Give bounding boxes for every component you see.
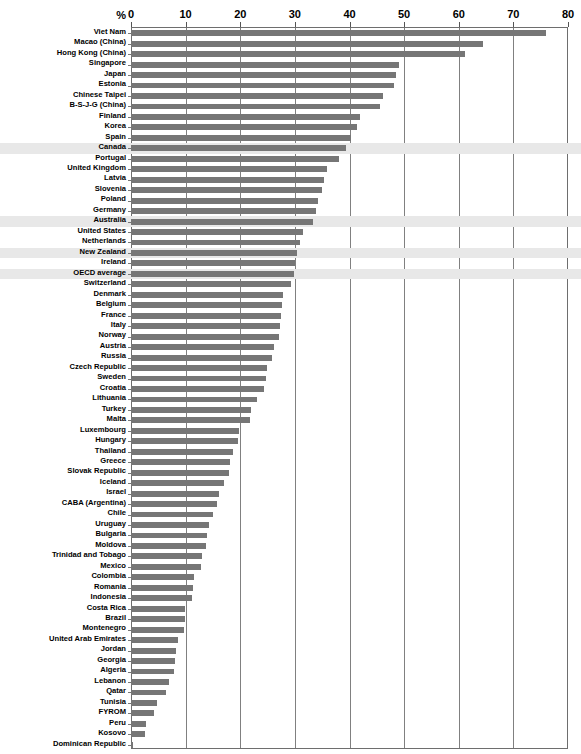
- category-label: Malta: [0, 414, 126, 424]
- bar: [131, 30, 546, 36]
- category-label: Finland: [0, 111, 126, 121]
- bar: [131, 449, 233, 455]
- category-label: Macao (China): [0, 37, 126, 47]
- category-label: Uruguay: [0, 519, 126, 529]
- bar: [131, 512, 213, 518]
- category-label: Colombia: [0, 571, 126, 581]
- category-label: Canada: [0, 142, 126, 152]
- category-label: Moldova: [0, 540, 126, 550]
- x-tick-label: 40: [343, 8, 355, 20]
- bar: [131, 553, 202, 559]
- category-label: Japan: [0, 69, 126, 79]
- bar: [131, 145, 346, 151]
- bar: [131, 585, 193, 591]
- category-label: Montenegro: [0, 623, 126, 633]
- category-label: CABA (Argentina): [0, 498, 126, 508]
- bar: [131, 135, 351, 141]
- category-label: Netherlands: [0, 236, 126, 246]
- category-label: Hong Kong (China): [0, 48, 126, 58]
- category-label: Costa Rica: [0, 603, 126, 613]
- category-label: Greece: [0, 456, 126, 466]
- category-label: Qatar: [0, 686, 126, 696]
- category-label: Slovenia: [0, 184, 126, 194]
- category-label: Turkey: [0, 404, 126, 414]
- bar: [131, 376, 266, 382]
- bar: [131, 417, 250, 423]
- category-label: Chile: [0, 508, 126, 518]
- bar: [131, 438, 238, 444]
- x-tick-label: 60: [453, 8, 465, 20]
- bar: [131, 313, 281, 319]
- x-axis-tick: [459, 22, 460, 27]
- bar: [131, 51, 465, 57]
- bar: [131, 250, 297, 256]
- category-label: Austria: [0, 341, 126, 351]
- bar: [131, 104, 380, 110]
- category-label: OECD average: [0, 268, 126, 278]
- bar: [131, 616, 185, 622]
- x-axis-tick: [240, 22, 241, 27]
- category-label: Slovak Republic: [0, 466, 126, 476]
- bar: [131, 219, 313, 225]
- bar: [131, 156, 339, 162]
- bar: [131, 114, 360, 120]
- bar: [131, 187, 322, 193]
- bar: [131, 742, 133, 748]
- x-tick-label: 0: [128, 8, 134, 20]
- category-label: Russia: [0, 351, 126, 361]
- horizontal-bar-chart: % 01020304050607080 Viet NamMacao (China…: [0, 0, 581, 754]
- category-label: Tunisia: [0, 697, 126, 707]
- category-label: Norway: [0, 330, 126, 340]
- bar-rows: Viet NamMacao (China)Hong Kong (China)Si…: [0, 28, 581, 748]
- bar: [131, 62, 399, 68]
- category-label: Peru: [0, 718, 126, 728]
- bar: [131, 355, 272, 361]
- category-label: Croatia: [0, 383, 126, 393]
- category-label: United Arab Emirates: [0, 634, 126, 644]
- category-label: Switzerland: [0, 278, 126, 288]
- category-label: Viet Nam: [0, 27, 126, 37]
- bar: [131, 281, 291, 287]
- bar: [131, 271, 294, 277]
- x-axis-tick: [568, 22, 569, 27]
- x-axis-tick: [350, 22, 351, 27]
- bar: [131, 344, 274, 350]
- bar: [131, 407, 251, 413]
- category-label: Bulgaria: [0, 529, 126, 539]
- chart-axis-header: % 01020304050607080: [0, 0, 581, 28]
- category-label: Israel: [0, 487, 126, 497]
- bar: [131, 501, 217, 507]
- bar: [131, 721, 146, 727]
- x-axis-tick: [186, 22, 187, 27]
- x-axis-tick: [295, 22, 296, 27]
- category-label: Romania: [0, 582, 126, 592]
- bar: [131, 522, 209, 528]
- category-label: Sweden: [0, 372, 126, 382]
- bar: [131, 491, 219, 497]
- category-label: Lithuania: [0, 393, 126, 403]
- category-label: Thailand: [0, 446, 126, 456]
- bar: [131, 302, 282, 308]
- category-label: Mexico: [0, 561, 126, 571]
- category-label: France: [0, 310, 126, 320]
- x-tick-label: 10: [180, 8, 192, 20]
- bar: [131, 198, 318, 204]
- bar: [131, 459, 230, 465]
- category-label: FYROM: [0, 707, 126, 717]
- x-tick-label: 50: [398, 8, 410, 20]
- bar: [131, 208, 316, 214]
- bar: [131, 679, 169, 685]
- bar: [131, 386, 264, 392]
- bar: [131, 177, 324, 183]
- category-label: Georgia: [0, 655, 126, 665]
- bar: [131, 700, 157, 706]
- bar: [131, 334, 279, 340]
- bar: [131, 637, 178, 643]
- category-label: Czech Republic: [0, 362, 126, 372]
- bar: [131, 397, 257, 403]
- category-label: Luxembourg: [0, 425, 126, 435]
- category-label: United Kingdom: [0, 163, 126, 173]
- bar: [131, 229, 303, 235]
- bar: [131, 72, 396, 78]
- category-label: Estonia: [0, 79, 126, 89]
